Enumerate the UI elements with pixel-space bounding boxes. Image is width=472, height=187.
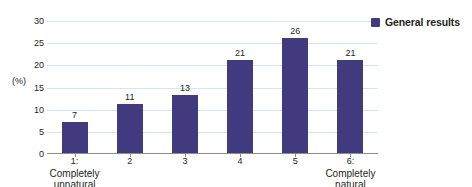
legend-label: General results <box>385 17 460 28</box>
x-axis-category-label-line: 6: <box>307 156 393 168</box>
legend-swatch-icon <box>371 18 380 27</box>
bar[interactable] <box>337 60 363 153</box>
y-axis-unit-label: (%) <box>12 77 26 86</box>
y-axis-tick-label: 10 <box>6 105 44 114</box>
x-axis-category-label-line: Completely <box>307 168 393 180</box>
y-axis-tick-label: 25 <box>6 39 44 48</box>
bar-value-label: 21 <box>235 49 245 58</box>
gridline <box>47 110 378 111</box>
gridline <box>47 132 378 133</box>
bar-value-label: 7 <box>72 111 77 120</box>
bar-value-label: 26 <box>290 27 300 36</box>
y-axis-tick-label: 30 <box>6 17 44 26</box>
bar-chart: 302520151050 (%) 71113212621 1:Completel… <box>0 0 472 187</box>
bar[interactable] <box>62 122 88 153</box>
y-axis-tick-label: 20 <box>6 61 44 70</box>
gridline <box>47 65 378 66</box>
bar-value-label: 21 <box>345 49 355 58</box>
x-axis-category-label: 6:Completelynatural <box>307 156 393 187</box>
x-axis-category-label-line: unnatural <box>32 179 118 187</box>
bar-value-label: 13 <box>180 84 190 93</box>
x-axis: 1:Completelyunnatural23456:Completelynat… <box>47 156 378 187</box>
y-axis-tick-label: 5 <box>6 127 44 136</box>
x-axis-category-label-line: Completely <box>32 168 118 180</box>
plot-area: 71113212621 <box>47 21 378 154</box>
gridline <box>47 43 378 44</box>
bar[interactable] <box>172 95 198 153</box>
x-axis-line <box>47 153 378 154</box>
bar[interactable] <box>282 38 308 153</box>
gridline <box>47 21 378 22</box>
bar[interactable] <box>227 60 253 153</box>
bar-value-label: 11 <box>125 93 134 102</box>
gridline <box>47 88 378 89</box>
chart-legend: General results <box>371 17 460 28</box>
bar[interactable] <box>117 104 143 153</box>
x-axis-category-label-line: natural <box>307 179 393 187</box>
